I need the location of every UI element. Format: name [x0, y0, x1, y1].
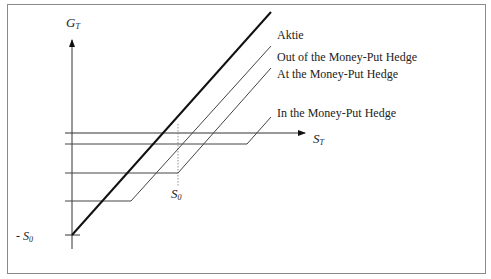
- payoff-diagram: [0, 0, 491, 279]
- legend-in-the-money: In the Money-Put Hedge: [277, 107, 396, 119]
- legend-out-of-the-money: Out of the Money-Put Hedge: [277, 51, 417, 63]
- y-axis-label-text: G: [66, 15, 75, 30]
- legend-aktie: Aktie: [277, 29, 304, 41]
- s0-label-sub: 0: [178, 193, 182, 202]
- neg-s0-label-sub: 0: [29, 235, 33, 244]
- y-axis-label-sub: T: [75, 22, 79, 31]
- at-the-money-put-hedge-line: [65, 68, 271, 173]
- x-axis-label-sub: T: [320, 138, 324, 147]
- out-of-the-money-put-hedge-line: [65, 46, 271, 201]
- x-axis-label: ST: [313, 132, 324, 147]
- neg-s0-label: - S0: [16, 230, 33, 244]
- s0-label: S0: [171, 187, 182, 202]
- legend-at-the-money: At the Money-Put Hedge: [277, 68, 398, 80]
- neg-s0-prefix: -: [16, 229, 23, 243]
- in-the-money-put-hedge-line: [65, 117, 271, 144]
- y-axis-label: GT: [66, 16, 80, 31]
